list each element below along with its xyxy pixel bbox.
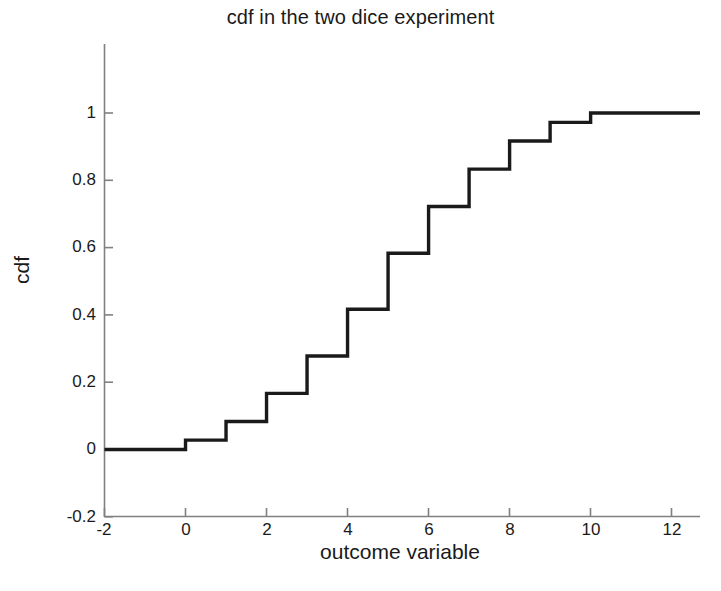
x-tick-label: 8 (480, 521, 540, 538)
x-tick-label-group: -2 0 2 4 6 8 10 12 (0, 0, 721, 591)
x-tick-label: 6 (399, 521, 459, 538)
y-axis-label: cdf (10, 230, 34, 310)
x-tick-label: 0 (156, 521, 216, 538)
x-tick-label: 12 (642, 521, 702, 538)
figure-container: cdf in the two dice experiment (0, 0, 721, 591)
x-tick-label: -2 (74, 521, 134, 538)
x-tick-label: 10 (561, 521, 621, 538)
x-axis-label: outcome variable (104, 540, 696, 564)
x-tick-label: 2 (237, 521, 297, 538)
x-tick-label: 4 (318, 521, 378, 538)
